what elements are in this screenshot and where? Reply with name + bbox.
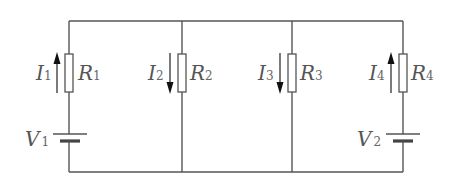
source-label-v2: V2 bbox=[357, 127, 381, 151]
branch-4: I4 R4 V2 bbox=[357, 21, 434, 172]
current-arrow-up-icon bbox=[54, 52, 61, 93]
resistor-label-r4: R4 bbox=[410, 61, 434, 85]
circuit-canvas: I1 R1 V1 I2 R2 I3 R3 bbox=[0, 0, 456, 182]
circuit-diagram: I1 R1 V1 I2 R2 I3 R3 bbox=[0, 0, 456, 182]
resistor-label-r2: R2 bbox=[189, 61, 213, 85]
branch-2: I2 R2 bbox=[147, 21, 213, 172]
current-arrow-up-icon bbox=[388, 52, 395, 93]
current-label-i3: I3 bbox=[257, 61, 274, 85]
resistor-r4 bbox=[399, 54, 407, 92]
resistor-r1 bbox=[65, 54, 73, 92]
current-label-i4: I4 bbox=[368, 61, 385, 85]
battery-v1-icon bbox=[53, 134, 87, 141]
resistor-label-r3: R3 bbox=[299, 61, 323, 85]
branch-1: I1 R1 V1 bbox=[25, 21, 101, 172]
resistor-label-r1: R1 bbox=[77, 61, 101, 85]
source-label-v1: V1 bbox=[25, 127, 49, 151]
current-arrow-down-icon bbox=[167, 53, 174, 94]
resistor-r3 bbox=[288, 54, 296, 92]
current-arrow-down-icon bbox=[277, 53, 284, 94]
battery-v2-icon bbox=[386, 134, 420, 141]
resistor-r2 bbox=[178, 54, 186, 92]
branch-3: I3 R3 bbox=[257, 21, 323, 172]
current-label-i1: I1 bbox=[35, 61, 52, 85]
current-label-i2: I2 bbox=[147, 61, 164, 85]
